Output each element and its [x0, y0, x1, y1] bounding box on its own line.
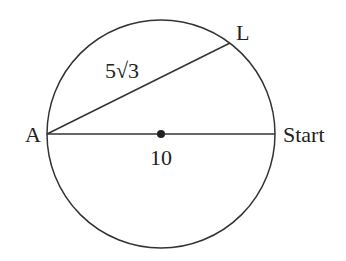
- point-label-l: L: [236, 20, 249, 45]
- center-dot: [157, 130, 165, 138]
- chord-length-label: 5√3: [105, 58, 139, 83]
- point-label-a: A: [25, 122, 41, 147]
- circle-diagram: A L Start 5√3 10: [0, 0, 346, 261]
- point-label-start: Start: [283, 122, 325, 147]
- diameter-length-label: 10: [150, 145, 172, 170]
- chord-a-l: [47, 43, 230, 134]
